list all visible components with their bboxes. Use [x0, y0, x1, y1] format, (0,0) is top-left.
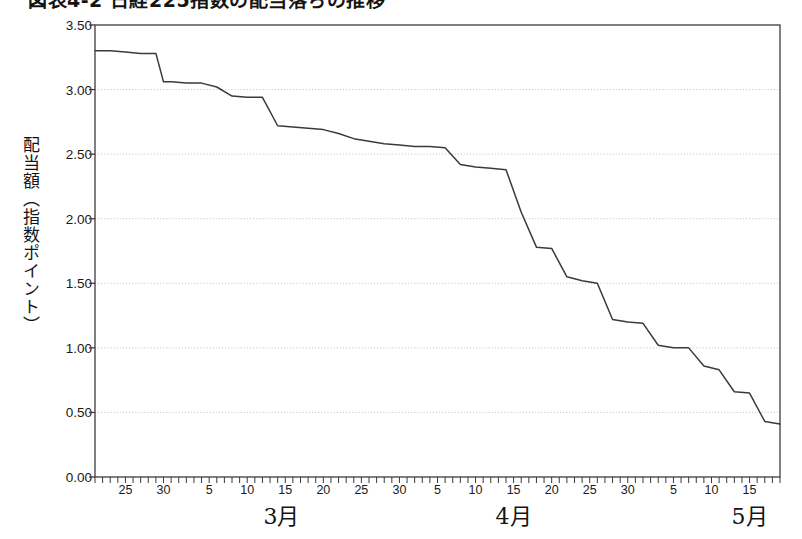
gridlines: [95, 90, 780, 413]
plot-frame: [95, 25, 780, 477]
x-tick-label: 30: [621, 483, 635, 497]
x-tick-label: 10: [240, 483, 254, 497]
x-tick-label: 15: [278, 483, 292, 497]
x-tick-label: 30: [157, 483, 171, 497]
x-tick-label: 20: [316, 483, 330, 497]
x-tick-label: 20: [545, 483, 559, 497]
x-tick-label: 10: [705, 483, 719, 497]
data-series-line: [95, 51, 780, 424]
x-tick-label: 5: [206, 483, 213, 497]
month-label: 4月: [496, 498, 532, 530]
x-tick-label: 5: [670, 483, 677, 497]
month-label: 3月: [263, 498, 299, 530]
x-tick-label: 25: [118, 483, 132, 497]
x-tick-label: 30: [392, 483, 406, 497]
chart-figure: 図表4-2 日経225指数の配当落ちの推移 配当額（指数ポイント） 0.000.…: [0, 0, 802, 539]
x-tick-label: 15: [743, 483, 757, 497]
y-axis-ticks: [89, 25, 95, 477]
plot-area: [0, 0, 802, 539]
x-tick-label: 25: [354, 483, 368, 497]
x-tick-label: 15: [507, 483, 521, 497]
x-tick-label: 10: [469, 483, 483, 497]
month-label: 5月: [732, 498, 768, 530]
x-tick-label: 25: [583, 483, 597, 497]
x-tick-label: 5: [434, 483, 441, 497]
